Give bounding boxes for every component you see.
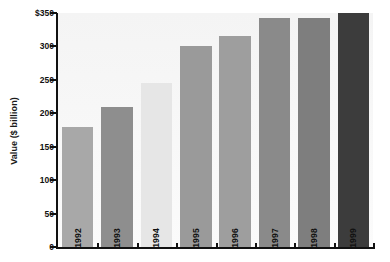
x-axis-tick-mark: [294, 243, 296, 249]
x-axis-tick-mark: [97, 243, 99, 249]
y-axis-tick-mark: [50, 79, 57, 81]
bar-1993: 1993: [101, 107, 133, 247]
x-axis-tick-mark: [255, 243, 257, 249]
x-axis-tick-mark: [373, 243, 375, 249]
y-axis-tick-mark: [50, 179, 57, 181]
y-axis-tick-mark: [50, 112, 57, 114]
bar-1994: 1994: [141, 83, 173, 247]
bar-category-label: 1994: [151, 228, 161, 247]
bar-1992: 1992: [62, 127, 94, 247]
bar-category-label: 1995: [191, 228, 201, 247]
x-axis-tick-mark: [334, 243, 336, 249]
x-axis-tick-mark: [176, 243, 178, 249]
plot-area: 19921993199419951996199719981999: [58, 13, 373, 247]
bar-category-label: 1996: [230, 228, 240, 247]
bar-category-label: 1997: [270, 228, 280, 247]
x-axis-line: [56, 247, 373, 249]
y-axis-tick-mark: [50, 146, 57, 148]
bar-1998: 1998: [298, 18, 330, 247]
bar-category-label: 1993: [112, 228, 122, 247]
x-axis-tick-mark: [216, 243, 218, 249]
y-axis-tick-mark: [50, 246, 57, 248]
bar-1996: 1996: [219, 36, 251, 247]
bar-chart: Value ($ billion) 050100150200250300$350…: [0, 0, 390, 262]
bar-category-label: 1992: [73, 228, 83, 247]
bar-1995: 1995: [180, 46, 212, 247]
y-axis-tick-mark: [50, 213, 57, 215]
bar-category-label: 1999: [348, 228, 358, 247]
y-axis-tick-mark: [50, 45, 57, 47]
bar-category-label: 1998: [309, 228, 319, 247]
y-axis-tick-labels: 050100150200250300$350: [24, 0, 54, 262]
y-axis-title-label: Value ($ billion): [9, 97, 19, 165]
y-axis-tick-mark: [50, 12, 57, 14]
bar-1997: 1997: [259, 18, 291, 247]
x-axis-tick-mark: [137, 243, 139, 249]
bar-1999: 1999: [338, 13, 370, 247]
